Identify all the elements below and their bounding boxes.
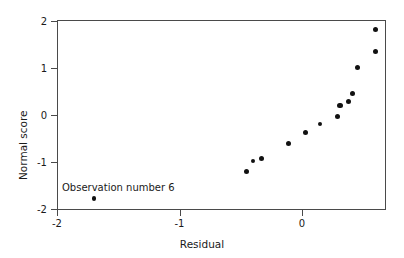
y-axis-tick — [51, 21, 57, 22]
x-axis-tick — [180, 210, 181, 216]
y-axis-tick — [51, 68, 57, 69]
x-axis-tick — [302, 210, 303, 216]
y-axis-tick-label: 1 — [25, 64, 47, 74]
y-axis-tick-label: -2 — [25, 205, 47, 215]
x-axis-title: Residual — [0, 238, 404, 250]
y-axis-tick — [51, 115, 57, 116]
x-axis-tick — [57, 210, 58, 216]
normal-probability-plot: 2 1 0 -1 -2 -2 -1 0 Observation number 6… — [0, 0, 404, 258]
x-axis-tick-label: -1 — [165, 219, 195, 229]
y-axis-tick-label: 2 — [25, 17, 47, 27]
y-axis-title: Normal score — [4, 50, 20, 180]
y-axis-tick — [51, 162, 57, 163]
y-axis-title-text: Normal score — [17, 110, 29, 180]
x-axis-tick-label: 0 — [287, 219, 317, 229]
x-axis-tick-label: -2 — [42, 219, 72, 229]
annotation-observation-6: Observation number 6 — [62, 182, 175, 193]
